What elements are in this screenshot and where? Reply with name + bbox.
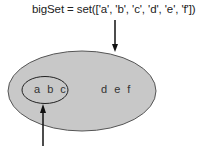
outer-set-label: d e f [101,83,132,95]
code-label: bigSet = set(['a', 'b', 'c', 'd', 'e', '… [32,3,198,15]
top-arrowhead-icon [112,44,118,52]
subset-label: a b c [34,83,68,95]
set-diagram-canvas [0,0,198,150]
